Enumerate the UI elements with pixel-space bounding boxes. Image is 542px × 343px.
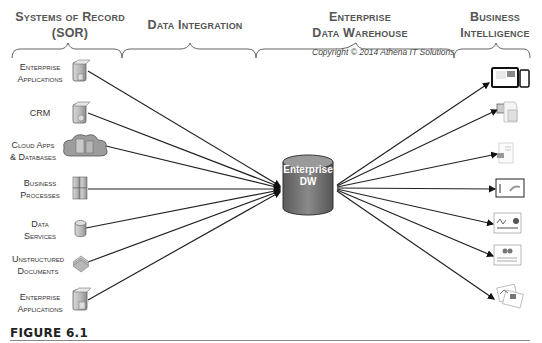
source-label-line: Unstructured [4, 253, 72, 265]
report-page-icon [497, 143, 513, 163]
inbound-connectors [86, 71, 280, 300]
dw-label-line: DW [283, 176, 333, 188]
connector-source-1 [88, 71, 280, 186]
source-label-line: Enterprise [8, 61, 72, 73]
source-label-line: Services [8, 230, 72, 242]
connector-target-1 [337, 83, 489, 185]
connector-target-2 [337, 110, 497, 186]
source-label-line: Applications [8, 303, 72, 315]
connector-target-6 [337, 190, 493, 256]
diagram-canvas [0, 0, 542, 343]
scorecard-report-icon [494, 245, 521, 265]
source-label-business-processes: Business Processes [8, 177, 72, 201]
source-label-cloud-apps: Cloud Apps & Databases [2, 139, 64, 163]
brace-edw [256, 43, 454, 58]
connector-target-3 [337, 154, 497, 187]
source-label-enterprise-applications-2: Enterprise Applications [8, 291, 72, 315]
server-icon [73, 60, 90, 81]
tablet-phone-dashboard-icon [492, 68, 529, 87]
connector-source-6 [88, 191, 280, 262]
source-label-unstructured-documents: Unstructured Documents [4, 253, 72, 277]
documents-icon [73, 256, 89, 272]
source-label-line: Business [8, 177, 72, 189]
source-label-crm: CRM [8, 107, 72, 119]
figure-label: FIGURE 6.1 [10, 326, 88, 340]
source-label-data-services: Data Services [8, 218, 72, 242]
source-label-line: Enterprise [8, 291, 72, 303]
source-label-line: Applications [8, 73, 72, 85]
dw-label-line: Enterprise [283, 164, 333, 176]
outbound-connectors [337, 83, 497, 299]
server-icon [73, 288, 91, 310]
connector-source-3 [106, 146, 280, 188]
source-label-line: Data [8, 218, 72, 230]
server-stack-icon [73, 177, 87, 199]
brace-integration [122, 43, 256, 58]
stacked-reports-icon [497, 284, 524, 308]
source-label-line: & Databases [2, 151, 64, 163]
database-icon [75, 221, 86, 237]
office-documents-icon [497, 102, 517, 122]
source-label-enterprise-applications-1: Enterprise Applications [8, 61, 72, 85]
source-label-line: CRM [8, 107, 72, 119]
connector-target-4 [337, 188, 495, 189]
brace-bi [454, 43, 530, 58]
brace-sor [12, 43, 122, 58]
server-icon [73, 102, 90, 123]
source-label-line: Processes [8, 189, 72, 201]
source-label-line: Documents [4, 265, 72, 277]
connector-source-2 [88, 113, 280, 187]
cloud-server-icon [64, 135, 108, 156]
dashboard-report-icon [494, 213, 521, 233]
figure-rule [10, 340, 530, 341]
source-label-line: Cloud Apps [2, 139, 64, 151]
enterprise-dw-label: Enterprise DW [283, 164, 333, 188]
chart-screen-icon [496, 179, 524, 197]
braces [12, 43, 530, 58]
